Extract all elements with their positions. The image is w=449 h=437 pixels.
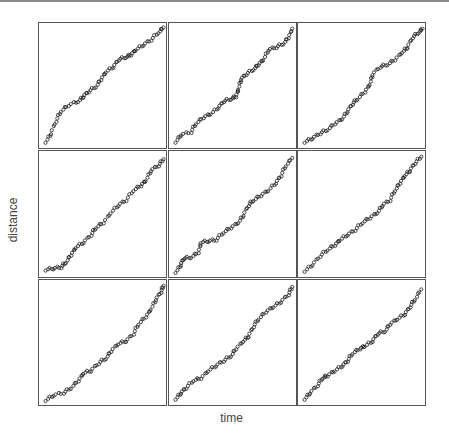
data-point bbox=[46, 138, 49, 141]
scatter-panel-4 bbox=[38, 150, 167, 278]
x-axis-label: time bbox=[0, 411, 449, 425]
data-point bbox=[291, 156, 294, 159]
data-point bbox=[243, 211, 246, 214]
data-point bbox=[126, 338, 129, 341]
data-point bbox=[47, 135, 50, 138]
scatter-panel-3 bbox=[297, 22, 426, 149]
data-point bbox=[191, 128, 194, 131]
data-point bbox=[83, 239, 86, 242]
data-point bbox=[55, 120, 58, 123]
data-point bbox=[185, 131, 188, 134]
scatter-panel-8 bbox=[168, 279, 297, 406]
scatter-panel-2 bbox=[168, 22, 297, 149]
y-axis-label: distance bbox=[6, 190, 20, 250]
data-point bbox=[284, 165, 287, 168]
data-point bbox=[91, 367, 94, 370]
data-point bbox=[372, 71, 375, 74]
data-point bbox=[312, 261, 315, 264]
data-point bbox=[104, 218, 107, 221]
data-point bbox=[288, 34, 291, 37]
data-point bbox=[263, 55, 266, 58]
scatter-panel-1 bbox=[38, 22, 167, 149]
data-point bbox=[59, 111, 62, 114]
data-point bbox=[50, 129, 53, 132]
data-point bbox=[281, 298, 284, 301]
data-point bbox=[69, 102, 72, 105]
data-point bbox=[248, 332, 251, 335]
data-point bbox=[146, 176, 149, 179]
data-point bbox=[281, 171, 284, 174]
top-rule bbox=[0, 0, 449, 2]
data-point bbox=[187, 132, 190, 135]
scatter-panel-5 bbox=[168, 150, 297, 278]
data-point bbox=[201, 375, 204, 378]
data-point bbox=[420, 288, 423, 291]
data-point bbox=[190, 131, 193, 134]
data-point bbox=[151, 305, 154, 308]
data-point bbox=[369, 80, 372, 83]
data-point bbox=[390, 196, 393, 199]
scatter-panel-9 bbox=[297, 279, 426, 406]
data-point bbox=[137, 323, 140, 326]
data-point bbox=[132, 333, 135, 336]
data-point bbox=[44, 141, 47, 144]
data-point bbox=[126, 196, 129, 199]
data-point bbox=[111, 347, 114, 350]
data-point bbox=[416, 295, 419, 298]
data-point bbox=[303, 270, 306, 273]
scatter-panel-7 bbox=[38, 279, 167, 406]
data-point bbox=[310, 389, 313, 392]
data-point bbox=[395, 56, 398, 59]
scatter-panel-6 bbox=[297, 150, 426, 278]
data-point bbox=[238, 85, 241, 88]
data-point bbox=[191, 125, 194, 128]
data-point bbox=[133, 330, 136, 333]
data-point bbox=[236, 345, 239, 348]
data-point bbox=[56, 117, 59, 120]
data-point bbox=[407, 43, 410, 46]
data-point bbox=[197, 248, 200, 251]
